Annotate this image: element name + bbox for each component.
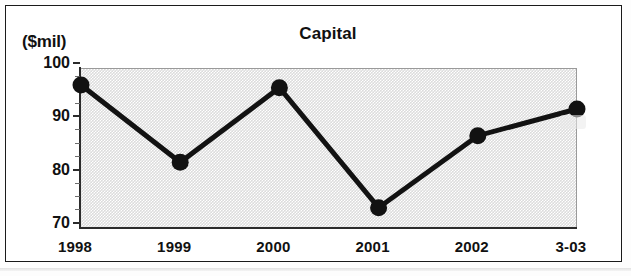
data-point-marker [73, 77, 90, 94]
data-point-marker [271, 79, 288, 96]
data-point-marker [370, 199, 387, 216]
series-layer [6, 6, 631, 276]
scan-edge-line [0, 268, 631, 271]
scan-artifact [560, 115, 586, 129]
figure-frame: ($mil) Capital 708090100 199819992000200… [5, 5, 622, 262]
capital-line [81, 85, 577, 208]
figure-root: ($mil) Capital 708090100 199819992000200… [0, 0, 631, 276]
data-point-marker [172, 154, 189, 171]
data-point-marker [469, 127, 486, 144]
